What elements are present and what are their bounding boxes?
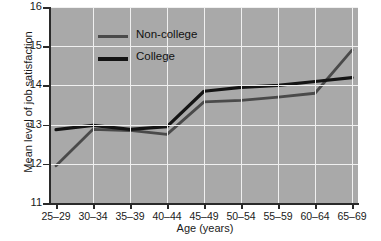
- x-tick: [204, 204, 206, 209]
- chart-figure: Mean level of job satisfaction 111213141…: [0, 0, 381, 241]
- y-tick: [43, 125, 49, 127]
- y-tick: [43, 203, 49, 205]
- legend-swatch-non-college: [98, 35, 128, 38]
- y-axis-line: [49, 7, 51, 204]
- x-tick: [93, 204, 95, 209]
- plot-area: [50, 7, 358, 203]
- y-tick-label: 11: [22, 196, 42, 208]
- gridline-vertical: [204, 7, 205, 203]
- y-tick-label: 12: [22, 157, 42, 169]
- y-tick-label: 15: [22, 39, 42, 51]
- gridline-vertical: [241, 7, 242, 203]
- gridline-vertical: [352, 7, 353, 203]
- gridline-vertical: [93, 7, 94, 203]
- y-tick: [43, 85, 49, 87]
- x-tick: [241, 204, 243, 209]
- x-axis-label: Age (years): [50, 222, 360, 234]
- x-tick: [167, 204, 169, 209]
- x-tick: [352, 204, 354, 209]
- x-tick: [130, 204, 132, 209]
- x-tick: [56, 204, 58, 209]
- legend-swatch-college: [98, 57, 128, 61]
- x-tick: [278, 204, 280, 209]
- y-tick: [43, 7, 49, 9]
- y-tick-label: 14: [22, 78, 42, 90]
- x-tick-label: 65–69: [329, 210, 375, 222]
- legend-label-non-college: Non-college: [136, 28, 197, 40]
- y-tick: [43, 164, 49, 166]
- y-tick-label: 16: [22, 0, 42, 12]
- x-tick: [315, 204, 317, 209]
- gridline-vertical: [130, 7, 131, 203]
- gridline-vertical: [278, 7, 279, 203]
- gridline-vertical: [315, 7, 316, 203]
- y-tick-label: 13: [22, 118, 42, 130]
- y-tick: [43, 46, 49, 48]
- legend-label-college: College: [136, 50, 175, 62]
